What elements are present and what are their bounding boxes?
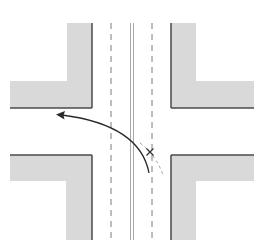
- intersection-diagram: [0, 0, 261, 249]
